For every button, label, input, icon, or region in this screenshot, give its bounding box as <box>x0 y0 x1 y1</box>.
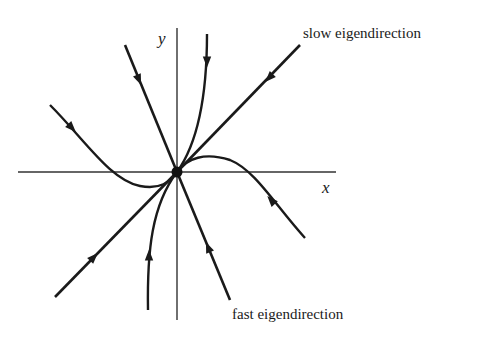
fast-eigendirection-label: fast eigendirection <box>232 306 344 322</box>
trajectory-curve-bottom <box>148 172 177 310</box>
x-axis-label: x <box>321 178 330 197</box>
trajectory-curve-left <box>50 105 177 187</box>
trajectory-curve-right <box>177 156 305 238</box>
trajectory-slow-lower <box>55 172 177 297</box>
arrow-curve-top-icon <box>203 57 211 68</box>
slow-eigendirection-label: slow eigendirection <box>303 25 421 41</box>
trajectory-fast-upper <box>125 45 177 172</box>
arrow-curve-bottom-icon <box>145 250 153 261</box>
fixed-point <box>172 167 183 178</box>
trajectory-curve-top <box>177 34 207 172</box>
arrow-fast-lower-icon <box>206 242 214 254</box>
trajectory-fast-lower <box>177 172 230 300</box>
y-axis-label: y <box>156 29 166 48</box>
trajectory-slow-upper <box>177 45 300 172</box>
arrow-fast-upper-icon <box>133 73 141 85</box>
phase-portrait: y x slow eigendirection fast eigendirect… <box>0 0 482 343</box>
